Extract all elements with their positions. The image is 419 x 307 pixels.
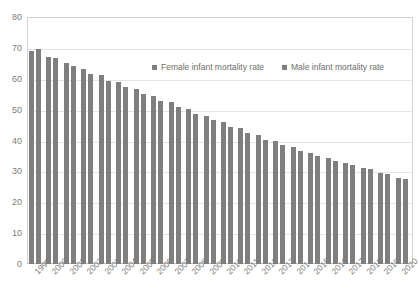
- bar: [193, 114, 198, 264]
- bar: [99, 75, 104, 264]
- bars-layer: [28, 17, 412, 264]
- bar: [134, 89, 139, 264]
- y-axis-tick-label: 10: [12, 229, 22, 238]
- bar: [273, 141, 278, 264]
- bar: [176, 107, 181, 264]
- square-marker-icon: [152, 65, 157, 70]
- bar: [256, 135, 261, 264]
- bar-group: [272, 17, 289, 264]
- bar-group: [28, 17, 45, 264]
- bar: [396, 178, 401, 264]
- bar: [315, 156, 320, 264]
- bar-group: [290, 17, 307, 264]
- y-axis-tick-label: 50: [12, 105, 22, 114]
- bar: [88, 74, 93, 264]
- bar-group: [255, 17, 272, 264]
- bar: [238, 128, 243, 264]
- bar-group: [325, 17, 342, 264]
- bar-group: [220, 17, 237, 264]
- bar-group: [185, 17, 202, 264]
- bar-group: [395, 17, 412, 264]
- bar: [186, 109, 191, 264]
- y-axis-tick-label: 60: [12, 74, 22, 83]
- bar-group: [203, 17, 220, 264]
- bar: [151, 96, 156, 264]
- y-axis-tick-label: 80: [12, 13, 22, 22]
- legend-label: Female infant mortality rate: [161, 63, 264, 72]
- y-axis-tick-label: 70: [12, 43, 22, 52]
- bar: [291, 147, 296, 264]
- legend-label: Male infant mortality rate: [291, 63, 384, 72]
- chart-legend: Female infant mortality rateMale infant …: [152, 63, 384, 72]
- bar: [81, 69, 86, 264]
- bar: [403, 179, 408, 264]
- bar: [123, 87, 128, 264]
- bar: [368, 169, 373, 264]
- bar-group: [360, 17, 377, 264]
- legend-item[interactable]: Female infant mortality rate: [152, 63, 264, 72]
- y-axis-tick-label: 40: [12, 136, 22, 145]
- y-axis-tick-label: 30: [12, 167, 22, 176]
- y-axis-tick-label: 20: [12, 198, 22, 207]
- bar-group: [63, 17, 80, 264]
- bar-group: [150, 17, 167, 264]
- bar-group: [98, 17, 115, 264]
- bar: [385, 174, 390, 264]
- bar: [343, 163, 348, 264]
- bar: [378, 173, 383, 264]
- bar: [36, 49, 41, 264]
- bar: [116, 82, 121, 264]
- bar-group: [80, 17, 97, 264]
- bar: [308, 153, 313, 264]
- y-axis-tick-label: 0: [17, 260, 22, 269]
- bar: [46, 57, 51, 264]
- bar: [221, 122, 226, 264]
- bar: [228, 127, 233, 264]
- x-axis: 1999200020012002200320042005200620072008…: [28, 264, 412, 307]
- bar: [280, 145, 285, 264]
- bar: [361, 168, 366, 264]
- bar: [204, 116, 209, 265]
- bar: [326, 158, 331, 264]
- bar: [169, 102, 174, 264]
- bar: [350, 165, 355, 264]
- bar: [64, 63, 69, 264]
- bar: [29, 51, 34, 264]
- bar: [71, 66, 76, 264]
- bar: [298, 151, 303, 264]
- bar: [106, 81, 111, 264]
- bar: [245, 133, 250, 264]
- bar: [263, 140, 268, 264]
- bar-group: [115, 17, 132, 264]
- bar: [211, 120, 216, 264]
- y-axis: 01020304050607080: [0, 0, 27, 307]
- bar: [141, 94, 146, 264]
- bar: [53, 58, 58, 264]
- bar-group: [45, 17, 62, 264]
- bar: [333, 161, 338, 264]
- bar-group: [307, 17, 324, 264]
- bar-group: [133, 17, 150, 264]
- square-marker-icon: [282, 65, 287, 70]
- bar-group: [342, 17, 359, 264]
- bar-group: [377, 17, 394, 264]
- bar-group: [237, 17, 254, 264]
- bar-group: [168, 17, 185, 264]
- legend-item[interactable]: Male infant mortality rate: [282, 63, 384, 72]
- bar: [158, 101, 163, 264]
